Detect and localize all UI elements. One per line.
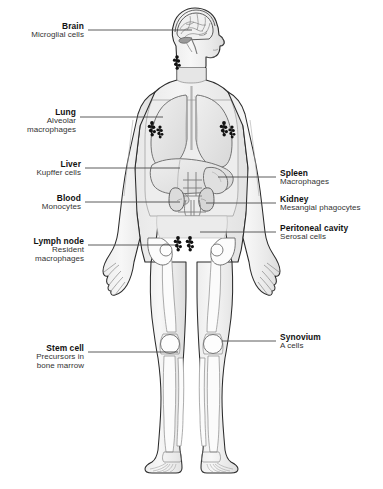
- label-lymph-node-sub-2: macrophages: [34, 255, 84, 264]
- label-peritoneal-cavity: Peritoneal cavity Serosal cells: [280, 224, 348, 242]
- label-kidney-sub: Mesangial phagocytes: [280, 204, 361, 213]
- label-stem-cell-sub-2: bone marrow: [36, 362, 84, 371]
- label-synovium: Synovium A cells: [280, 333, 321, 351]
- label-lung-sub-2: macrophages: [27, 126, 76, 135]
- label-peritoneal-cavity-sub: Serosal cells: [280, 233, 348, 242]
- label-lung: Lung Alveolar macrophages: [27, 108, 76, 135]
- inguinal-lymph-node-right: [186, 236, 194, 251]
- label-liver-sub: Kupffer cells: [36, 169, 81, 178]
- body-silhouette: [103, 8, 280, 473]
- label-synovium-sub: A cells: [280, 342, 321, 351]
- label-stem-cell: Stem cell Precursors in bone marrow: [36, 344, 84, 371]
- label-blood-sub: Monocytes: [42, 203, 81, 212]
- label-brain-sub: Microglial cells: [31, 31, 84, 40]
- label-kidney: Kidney Mesangial phagocytes: [280, 195, 361, 213]
- label-spleen-sub: Macrophages: [280, 178, 329, 187]
- peritoneum: [157, 216, 228, 238]
- inguinal-lymph-node-left: [174, 236, 182, 251]
- label-brain: Brain Microglial cells: [31, 22, 84, 40]
- label-spleen: Spleen Macrophages: [280, 169, 329, 187]
- label-liver: Liver Kupffer cells: [36, 160, 81, 178]
- label-lymph-node: Lymph node Resident macrophages: [34, 237, 84, 264]
- label-blood: Blood Monocytes: [42, 194, 81, 212]
